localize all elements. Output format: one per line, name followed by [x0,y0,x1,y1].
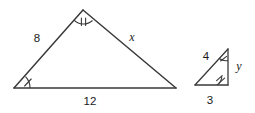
large-triangle-right-side-label: x [128,30,135,44]
large-triangle-left-side [14,10,83,88]
geometry-figure: 8 x 12 4 y 3 [0,0,255,113]
large-triangle-bottom-left-angle-mark [25,77,32,88]
small-triangle-bottom-right-angle-mark [217,76,225,85]
small-triangle: 4 y 3 [195,49,242,106]
small-triangle-hypotenuse-label: 4 [203,50,210,62]
large-triangle-left-side-label: 8 [34,32,40,44]
large-triangle: 8 x 12 [14,10,176,107]
geometry-canvas: 8 x 12 4 y 3 [0,0,255,113]
small-triangle-base-label: 3 [207,94,213,106]
small-triangle-right-side-label: y [235,59,242,73]
large-triangle-base-label: 12 [84,95,97,107]
large-triangle-right-side [83,10,176,88]
large-triangle-apex-angle-mark [74,18,93,25]
